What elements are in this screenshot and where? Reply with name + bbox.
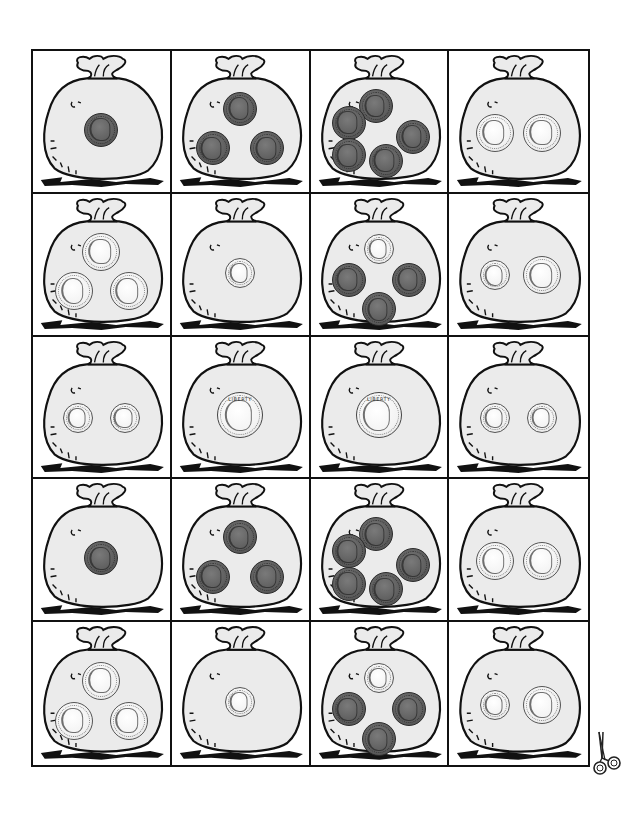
dime-coin-icon xyxy=(225,258,255,288)
penny-coin-icon xyxy=(332,534,366,568)
nickel-coin-icon xyxy=(476,114,514,152)
nickel-coin-icon xyxy=(110,702,148,740)
nickel-coin-icon xyxy=(523,542,561,580)
penny-coin-icon xyxy=(332,692,366,726)
coin-portrait xyxy=(115,708,138,733)
nickel-coin-icon xyxy=(55,702,93,740)
nickel-coin-icon xyxy=(476,542,514,580)
penny-coin-icon xyxy=(369,572,403,606)
dime-coin-icon xyxy=(364,663,394,693)
money-bag-card xyxy=(449,194,588,337)
coin-portrait xyxy=(201,565,222,588)
penny-coin-icon xyxy=(362,292,396,326)
money-bag-card xyxy=(311,622,450,765)
coin-portrait xyxy=(529,548,552,573)
coin-portrait xyxy=(374,578,395,601)
penny-coin-icon xyxy=(332,106,366,140)
money-bag-icon xyxy=(449,337,588,478)
coin-portrait xyxy=(337,540,358,563)
penny-coin-icon xyxy=(196,131,230,165)
nickel-coin-icon xyxy=(82,233,120,271)
coin-portrait xyxy=(229,263,247,283)
coin-portrait xyxy=(88,668,111,693)
dime-coin-icon xyxy=(364,234,394,264)
penny-coin-icon xyxy=(332,567,366,601)
scissors-icon xyxy=(590,730,624,780)
coin-portrait xyxy=(337,572,358,595)
coin-portrait xyxy=(401,554,422,577)
coin-portrait xyxy=(114,408,132,428)
money-bag-card xyxy=(172,622,311,765)
money-bag-icon xyxy=(449,622,588,765)
coin-portrait xyxy=(484,265,502,285)
coin-portrait xyxy=(529,692,552,717)
coin-portrait xyxy=(229,692,247,712)
money-bag-card: LIBERTY xyxy=(172,337,311,480)
coin-portrait xyxy=(256,137,277,160)
coin-portrait xyxy=(89,547,110,570)
penny-coin-icon xyxy=(369,144,403,178)
coin-portrait xyxy=(397,698,418,721)
penny-coin-icon xyxy=(362,722,396,756)
coin-portrait xyxy=(363,400,390,431)
coin-portrait xyxy=(201,137,222,160)
money-bag-card xyxy=(33,194,172,337)
money-bag-card: LIBERTY xyxy=(311,337,450,480)
money-bag-card xyxy=(449,622,588,765)
money-bag-card xyxy=(311,194,450,337)
dime-coin-icon xyxy=(480,690,510,720)
money-bag-card xyxy=(33,51,172,194)
money-bag-card xyxy=(33,479,172,622)
coin-portrait xyxy=(364,523,385,546)
money-bag-icon xyxy=(449,194,588,335)
coin-portrait xyxy=(228,526,249,549)
coin-portrait xyxy=(337,111,358,134)
coin-legend: LIBERTY xyxy=(218,396,262,402)
money-bag-card xyxy=(311,51,450,194)
coin-portrait xyxy=(532,408,550,428)
coin-portrait xyxy=(224,400,251,431)
coin-portrait xyxy=(482,548,505,573)
money-bag-icon xyxy=(449,479,588,620)
nickel-coin-icon xyxy=(82,662,120,700)
coin-portrait xyxy=(228,97,249,120)
penny-coin-icon xyxy=(332,263,366,297)
penny-coin-icon xyxy=(396,120,430,154)
penny-coin-icon xyxy=(250,560,284,594)
money-bag-card-grid: LIBERTY LIBERTY xyxy=(31,49,590,767)
penny-coin-icon xyxy=(332,138,366,172)
money-bag-card xyxy=(33,622,172,765)
coin-portrait xyxy=(368,668,386,688)
coin-portrait xyxy=(397,268,418,291)
money-bag-card xyxy=(449,51,588,194)
coin-portrait xyxy=(61,278,84,303)
money-bag-card xyxy=(449,337,588,480)
penny-coin-icon xyxy=(392,692,426,726)
nickel-coin-icon xyxy=(523,686,561,724)
money-bag-card xyxy=(172,479,311,622)
penny-coin-icon xyxy=(84,113,118,147)
coin-portrait xyxy=(364,95,385,118)
penny-coin-icon xyxy=(196,560,230,594)
coin-portrait xyxy=(529,120,552,145)
penny-coin-icon xyxy=(223,92,257,126)
money-bag-card xyxy=(449,479,588,622)
money-bag-icon xyxy=(449,51,588,192)
coin-portrait xyxy=(484,408,502,428)
coin-portrait xyxy=(482,120,505,145)
penny-coin-icon xyxy=(392,263,426,297)
coin-portrait xyxy=(367,728,388,751)
coin-portrait xyxy=(88,239,111,264)
coin-portrait xyxy=(256,565,277,588)
dime-coin-icon xyxy=(110,403,140,433)
coin-portrait xyxy=(115,278,138,303)
quarter-coin-icon: LIBERTY xyxy=(356,392,402,438)
nickel-coin-icon xyxy=(55,272,93,310)
coin-portrait xyxy=(484,695,502,715)
nickel-coin-icon xyxy=(523,114,561,152)
money-bag-card xyxy=(33,337,172,480)
nickel-coin-icon xyxy=(110,272,148,310)
coin-portrait xyxy=(337,698,358,721)
coin-portrait xyxy=(367,298,388,321)
money-bag-card xyxy=(311,479,450,622)
